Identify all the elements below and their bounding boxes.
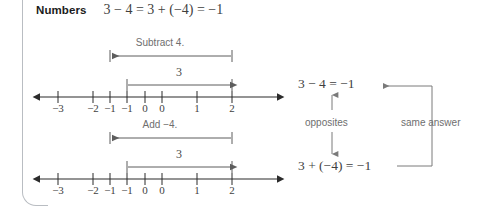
callout-header: Numbers 3 − 4 = 3 + (−4) = −1 [36, 2, 223, 18]
tick-label: −1 [121, 184, 133, 194]
span-label-subtract: 3 [176, 65, 182, 79]
tick-labels-subtract: −3 −2 −1 0 1 2 −1 0 [52, 102, 235, 112]
tick-label: −3 [52, 102, 64, 112]
tick-label: 2 [229, 102, 235, 112]
tick-label: −2 [87, 184, 99, 194]
tick-label: 2 [229, 184, 235, 194]
tick-label: −1 [104, 184, 116, 194]
operation-arrow-subtract [110, 50, 232, 62]
number-line-subtract: Subtract 4. 3 [0, 36, 296, 112]
span-arrow-subtract [127, 79, 232, 91]
label-opposites: opposites [305, 117, 348, 128]
number-line-add-negative-svg: Add −4. 3 [0, 118, 296, 194]
tick-label: 0 [142, 184, 148, 194]
equation-connector-panel: 3 − 4 = −1 opposites same answer 3 + (−4… [296, 70, 484, 182]
operation-label-add-negative: Add −4. [143, 119, 178, 130]
operation-label-subtract: Subtract 4. [136, 37, 184, 48]
tick-label: −2 [87, 102, 99, 112]
span-label-add-negative: 3 [176, 147, 182, 161]
label-same-answer: same answer [401, 117, 460, 128]
operation-arrow-add-negative [110, 132, 232, 144]
tick-label: 1 [194, 184, 200, 194]
callout-equation: 3 − 4 = 3 + (−4) = −1 [104, 2, 224, 18]
tick-label: 0 [142, 102, 148, 112]
span-arrow-add-negative [127, 161, 232, 173]
equation-subtract-result: 3 − 4 = −1 [298, 76, 355, 92]
equation-add-negative-result: 3 + (−4) = −1 [298, 158, 371, 174]
tick-label: −1 [121, 102, 133, 112]
tick-label: 1 [194, 102, 200, 112]
tick-label: −3 [52, 184, 64, 194]
tick-label: 0 [159, 102, 165, 112]
number-line-add-negative: Add −4. 3 [0, 118, 296, 194]
callout-label: Numbers [36, 4, 87, 16]
tick-label: −1 [104, 102, 116, 112]
numbers-callout-figure: Numbers 3 − 4 = 3 + (−4) = −1 Subtrac [0, 0, 484, 215]
number-line-subtract-svg: Subtract 4. 3 [0, 36, 296, 112]
tick-labels-add-negative: −3 −2 −1 0 1 2 −1 0 [52, 184, 235, 194]
tick-label: 0 [159, 184, 165, 194]
